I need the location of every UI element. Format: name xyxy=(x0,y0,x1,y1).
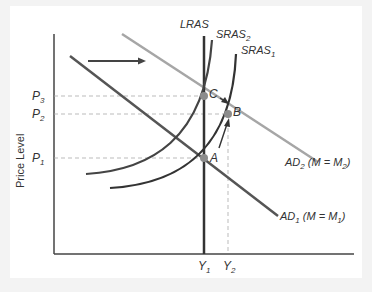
point-c-label: C xyxy=(209,87,218,101)
svg-text:AD2 (M = M2): AD2 (M = M2) xyxy=(284,156,351,171)
svg-text:P3: P3 xyxy=(32,89,45,105)
price-level-p2: P2 xyxy=(32,107,45,123)
price-level-p1: P1 xyxy=(32,151,44,167)
sras1-label: SRAS1 xyxy=(241,44,275,59)
svg-text:SRAS2: SRAS2 xyxy=(216,28,251,43)
sras2-label: SRAS2 xyxy=(216,28,251,43)
price-level-p3: P3 xyxy=(32,89,45,105)
guide-lines xyxy=(54,96,228,254)
svg-text:AD1 (M = M1): AD1 (M = M1) xyxy=(279,210,346,225)
point-b-marker xyxy=(224,110,232,118)
output-level-y2: Y2 xyxy=(223,259,236,275)
svg-text:Y1: Y1 xyxy=(198,259,210,275)
point-a-marker xyxy=(200,154,208,162)
svg-text:P1: P1 xyxy=(32,151,44,167)
lras-label: LRAS xyxy=(180,18,209,30)
svg-text:Y2: Y2 xyxy=(223,259,236,275)
ad1-label: AD1 (M = M1) xyxy=(279,210,346,225)
point-c-marker xyxy=(200,92,208,100)
y-axis-label: Price Level xyxy=(14,134,26,188)
output-level-y1: Y1 xyxy=(198,259,210,275)
point-a-label: A xyxy=(209,151,218,165)
ad-as-diagram: C B A Price Level P3 P2 P1 Y1 Y2 LRAS SR… xyxy=(0,0,372,292)
svg-text:SRAS1: SRAS1 xyxy=(241,44,275,59)
svg-text:P2: P2 xyxy=(32,107,45,123)
ad-shift-arrow xyxy=(88,58,146,65)
ad1-curve xyxy=(70,56,278,216)
point-b-label: B xyxy=(233,105,241,119)
ad2-label: AD2 (M = M2) xyxy=(284,156,351,171)
